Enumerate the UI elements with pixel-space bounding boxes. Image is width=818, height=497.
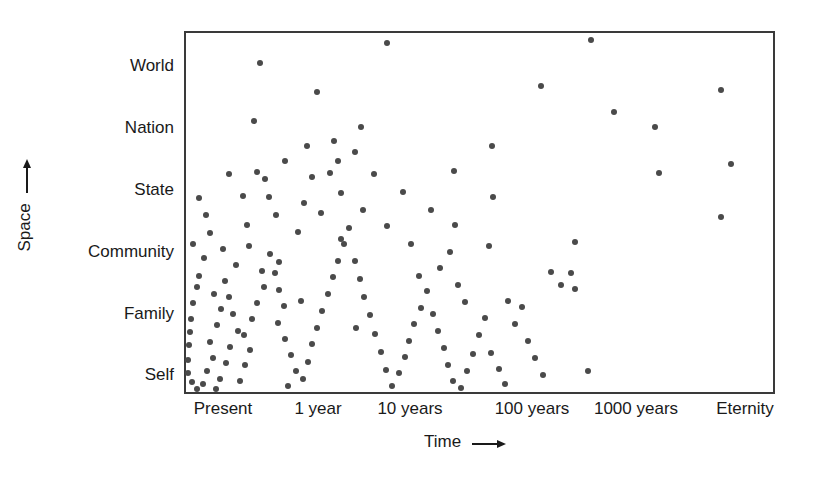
scatter-point — [418, 305, 424, 311]
scatter-point — [451, 168, 457, 174]
scatter-point — [257, 60, 263, 66]
scatter-point — [241, 332, 247, 338]
plot-area — [184, 31, 775, 394]
scatter-point — [476, 332, 482, 338]
scatter-point — [462, 299, 468, 305]
scatter-point — [372, 331, 378, 337]
x-axis-title-text: Time — [424, 432, 461, 451]
scatter-point — [437, 265, 443, 271]
scatter-point — [558, 282, 564, 288]
scatter-point — [298, 298, 304, 304]
scatter-point — [288, 352, 294, 358]
scatter-point — [185, 357, 191, 363]
y-axis-title-text: Space — [15, 203, 34, 251]
scatter-point — [262, 176, 268, 182]
scatter-point — [254, 169, 260, 175]
scatter-point — [261, 284, 267, 290]
scatter-point — [305, 359, 311, 365]
scatter-point — [217, 376, 223, 382]
scatter-point — [301, 200, 307, 206]
y-axis-title: Space — [15, 135, 35, 275]
scatter-point — [357, 276, 363, 282]
y-tick-label: Family — [124, 305, 174, 323]
scatter-point — [728, 161, 734, 167]
scatter-point — [452, 222, 458, 228]
scatter-point — [194, 386, 200, 392]
scatter-point — [656, 170, 662, 176]
scatter-point — [204, 368, 210, 374]
scatter-point — [488, 350, 494, 356]
scatter-point — [384, 223, 390, 229]
scatter-point — [360, 207, 366, 213]
scatter-point — [424, 288, 430, 294]
scatter-point — [187, 329, 193, 335]
scatter-point — [273, 212, 279, 218]
scatter-point — [282, 158, 288, 164]
scatter-point — [402, 354, 408, 360]
scatter-point — [230, 311, 236, 317]
scatter-point — [235, 328, 241, 334]
x-axis-tick-labels: Present1 year10 years100 years1000 years… — [0, 398, 818, 424]
y-tick-label: State — [134, 181, 174, 199]
y-tick-label: World — [130, 57, 174, 75]
scatter-point — [505, 298, 511, 304]
scatter-point — [295, 229, 301, 235]
scatter-point — [383, 367, 389, 373]
scatter-point — [281, 303, 287, 309]
scatter-point — [203, 212, 209, 218]
scatter-point — [396, 370, 402, 376]
scatter-point — [512, 321, 518, 327]
scatter-point — [251, 118, 257, 124]
scatter-point — [335, 158, 341, 164]
scatter-point — [327, 170, 333, 176]
scatter-point — [196, 195, 202, 201]
scatter-point — [186, 342, 192, 348]
scatter-point — [194, 284, 200, 290]
scatter-point — [353, 325, 359, 331]
scatter-point — [428, 207, 434, 213]
scatter-point — [568, 270, 574, 276]
scatter-point — [226, 171, 232, 177]
scatter-point — [361, 294, 367, 300]
scatter-point — [652, 124, 658, 130]
scatter-point — [400, 189, 406, 195]
scatter-point — [309, 341, 315, 347]
scatter-point — [352, 258, 358, 264]
scatter-point — [282, 336, 288, 342]
scatter-point — [246, 243, 252, 249]
scatter-point — [371, 171, 377, 177]
scatter-point — [445, 362, 451, 368]
scatter-point — [718, 214, 724, 220]
scatter-point — [319, 308, 325, 314]
scatter-point — [489, 143, 495, 149]
scatter-point — [222, 278, 228, 284]
scatter-point — [227, 344, 233, 350]
scatter-point — [331, 138, 337, 144]
scatter-point — [540, 372, 546, 378]
scatter-point — [367, 312, 373, 318]
scatter-point — [318, 210, 324, 216]
x-axis-title: Time — [0, 432, 818, 452]
scatter-point — [470, 351, 476, 357]
scatter-point — [242, 362, 248, 368]
scatter-point — [201, 255, 207, 261]
scatter-point — [190, 300, 196, 306]
scatter-point — [389, 383, 395, 389]
scatter-point — [190, 241, 196, 247]
x-tick-label: 10 years — [377, 398, 442, 420]
scatter-point — [430, 311, 436, 317]
x-tick-label: 100 years — [495, 398, 570, 420]
scatter-point — [267, 251, 273, 257]
scatter-point — [226, 294, 232, 300]
scatter-point — [249, 316, 255, 322]
x-axis-arrow-icon — [472, 433, 506, 453]
scatter-point — [525, 338, 531, 344]
scatter-point — [254, 300, 260, 306]
scatter-point — [338, 190, 344, 196]
scatter-point — [293, 368, 299, 374]
scatter-point — [214, 322, 220, 328]
x-tick-label: 1 year — [294, 398, 341, 420]
scatter-point — [406, 338, 412, 344]
scatter-point — [718, 87, 724, 93]
scatter-point — [185, 370, 191, 376]
